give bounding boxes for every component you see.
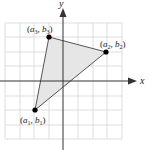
- vertex-label-p3: (a3, b3): [27, 24, 53, 35]
- x-axis-label: x: [139, 75, 145, 86]
- x-axis-arrow-icon: [128, 78, 137, 85]
- vertex-p2: [103, 49, 108, 54]
- vertex-p3: [46, 34, 51, 39]
- y-axis-arrow-icon: [60, 8, 67, 17]
- y-axis-label: y: [58, 0, 64, 9]
- vertex-label-p1: (a1, b1): [20, 115, 46, 126]
- triangle: [35, 37, 106, 110]
- vertex-p1: [32, 107, 37, 112]
- vertex-label-p2: (a2, b2): [100, 39, 126, 50]
- coordinate-plane: x y (a3, b3) (a2, b2) (a1, b1): [0, 0, 149, 150]
